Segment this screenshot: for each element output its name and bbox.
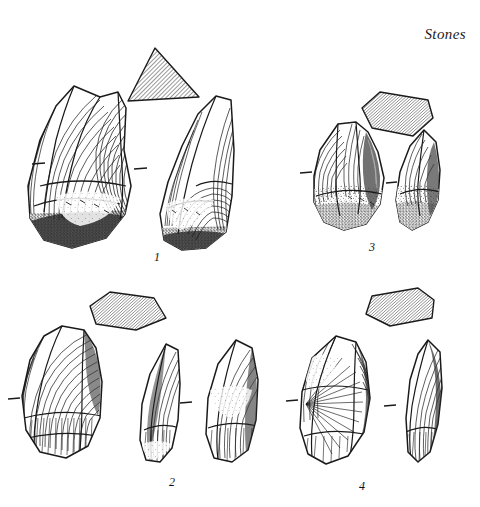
tick-fig4-left — [286, 400, 298, 401]
figure-1-face-view — [24, 86, 134, 252]
figure-2-group — [8, 292, 258, 462]
figure-3-section — [362, 92, 433, 136]
figure-2-reverse-view — [206, 340, 258, 462]
figure-4-section — [366, 288, 434, 326]
tick-fig3-left — [300, 172, 312, 173]
figure-1-group — [24, 48, 238, 254]
figure-4-edge-view — [406, 340, 442, 462]
figure-2-section — [90, 292, 166, 330]
figure-number-3: 3 — [362, 240, 382, 255]
tick-fig3-mid — [386, 182, 397, 183]
figure-2-profile-view — [140, 344, 180, 462]
tick-fig1-mid — [134, 168, 147, 169]
figure-number-1: 1 — [147, 250, 167, 265]
figure-number-2: 2 — [162, 475, 182, 490]
tick-fig4-mid — [384, 405, 396, 406]
figure-3-face-view — [310, 122, 388, 234]
figure-2-face-view — [22, 326, 103, 458]
illustration-plate: Stones — [0, 0, 480, 507]
figure-number-4: 4 — [352, 479, 372, 494]
figure-3-side-view — [394, 130, 442, 234]
plate-artwork — [0, 0, 480, 507]
figure-4-group — [286, 288, 442, 464]
figure-1-side-view — [158, 96, 238, 254]
tick-fig2-left — [8, 398, 20, 399]
figure-4-face-view — [300, 336, 372, 464]
tick-fig2-mid — [180, 402, 192, 403]
figure-1-section — [128, 48, 199, 101]
figure-3-group — [300, 92, 442, 234]
